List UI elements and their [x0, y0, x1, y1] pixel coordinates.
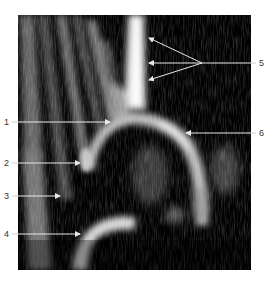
ultrasound-frame — [18, 15, 251, 270]
label-1: 1 — [4, 117, 9, 127]
label-4: 4 — [4, 229, 9, 239]
ultrasound-figure: 1 2 3 4 5 6 — [0, 0, 280, 284]
label-2: 2 — [4, 158, 9, 168]
label-3: 3 — [4, 191, 9, 201]
label-6: 6 — [259, 128, 264, 138]
speckle-texture — [18, 15, 251, 270]
label-5: 5 — [259, 58, 264, 68]
ultrasound-image — [0, 0, 280, 284]
